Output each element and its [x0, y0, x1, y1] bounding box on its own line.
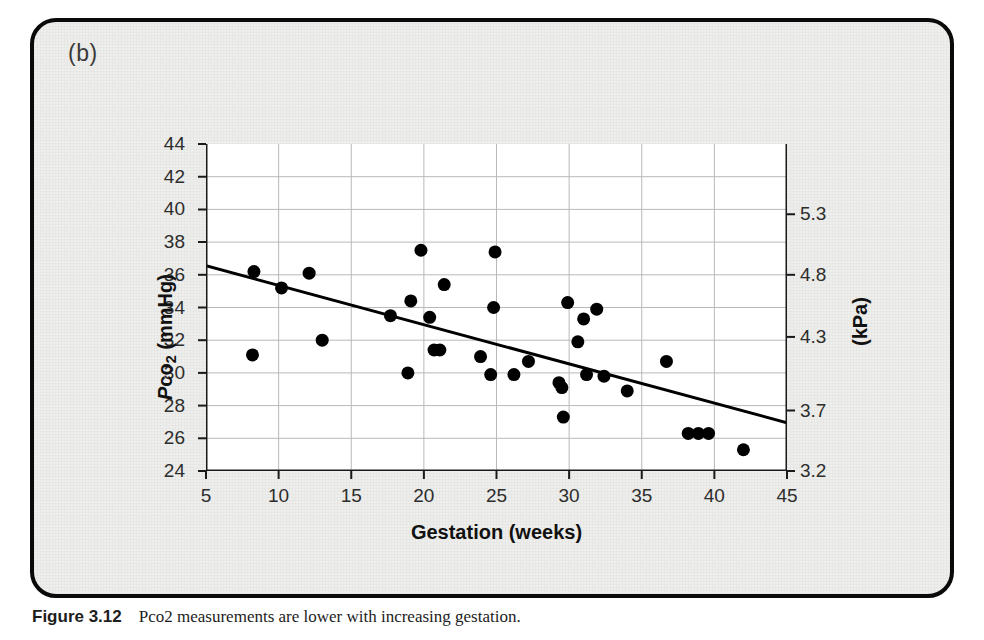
data-point — [423, 311, 436, 324]
y-axis-label-symbol: P — [154, 386, 176, 399]
data-point — [487, 301, 500, 314]
x-axis-label: Gestation (weeks) — [206, 521, 787, 544]
y-tick-label-left: 38 — [164, 231, 185, 253]
data-point — [577, 312, 590, 325]
caption-text: Pco2 measurements are lower with increas… — [139, 607, 521, 626]
data-point — [303, 267, 316, 280]
x-tick-label: 5 — [201, 485, 212, 507]
y-tick-label-right: 5.3 — [800, 203, 826, 225]
data-point — [557, 411, 570, 424]
figure-panel: (b) 24262830323436384042443.23.74.34.85.… — [30, 18, 954, 598]
x-tick-label: 30 — [559, 485, 580, 507]
y-tick-label-right: 3.2 — [800, 460, 826, 482]
data-point — [571, 335, 584, 348]
x-tick-label: 35 — [631, 485, 652, 507]
data-point — [414, 244, 427, 257]
x-tick-label: 25 — [486, 485, 507, 507]
y-axis-label-subscript: 2 — [163, 355, 179, 363]
y-tick-label-right: 3.7 — [800, 400, 826, 422]
scatter-plot-svg — [206, 144, 787, 471]
x-tick-label: 40 — [704, 485, 725, 507]
x-tick-label: 20 — [413, 485, 434, 507]
data-point — [484, 368, 497, 381]
y-tick-label-right: 4.8 — [800, 264, 826, 286]
panel-label: (b) — [68, 40, 98, 67]
data-point — [438, 278, 451, 291]
plot-area — [206, 144, 787, 471]
data-point — [316, 334, 329, 347]
y-tick-label-left: 26 — [164, 427, 185, 449]
figure-caption: Figure 3.12 Pco2 measurements are lower … — [32, 606, 962, 636]
data-point — [555, 381, 568, 394]
y-tick-label-left: 44 — [164, 133, 185, 155]
data-point — [401, 366, 414, 379]
data-point — [590, 303, 603, 316]
data-point — [597, 370, 610, 383]
data-point — [522, 355, 535, 368]
data-point — [561, 296, 574, 309]
y-axis-label-right: (kPa) — [849, 297, 872, 346]
data-point — [275, 281, 288, 294]
y-tick-label-left: 24 — [164, 460, 185, 482]
data-point — [433, 344, 446, 357]
y-tick-label-left: 42 — [164, 166, 185, 188]
data-point — [507, 368, 520, 381]
x-tick-label: 45 — [776, 485, 797, 507]
data-point — [489, 245, 502, 258]
x-tick-label: 15 — [341, 485, 362, 507]
caption-figure-number: Figure 3.12 — [32, 607, 122, 626]
x-tick-label: 10 — [268, 485, 289, 507]
data-point — [737, 443, 750, 456]
y-axis-label-left: Pco2 (mmHg) — [154, 274, 179, 400]
data-point — [474, 350, 487, 363]
data-point — [404, 294, 417, 307]
data-point — [246, 348, 259, 361]
data-point — [621, 384, 634, 397]
data-point — [660, 355, 673, 368]
figure-root: (b) 24262830323436384042443.23.74.34.85.… — [0, 0, 984, 640]
data-point — [580, 368, 593, 381]
data-point — [702, 427, 715, 440]
data-point — [247, 265, 260, 278]
y-tick-label-right: 4.3 — [800, 326, 826, 348]
data-point — [384, 309, 397, 322]
y-tick-label-left: 40 — [164, 198, 185, 220]
